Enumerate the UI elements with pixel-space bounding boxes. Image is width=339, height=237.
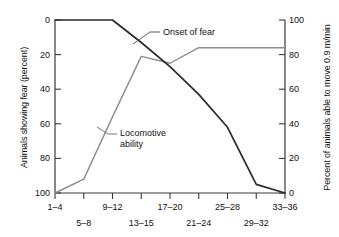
x-axis-tick-33-36: 33–36 (272, 203, 297, 212)
y-axis-left-tick-80: 80 (18, 154, 50, 163)
y-axis-left-tick-100: 100 (18, 189, 50, 198)
y-axis-right-title: Percent of animals able to move 0.9 m/mi… (323, 13, 332, 203)
x-axis-tick-1-4: 1–4 (47, 203, 62, 212)
left-axis-ticks (55, 20, 61, 193)
series-label-locomotive-ability: Locomotive ability (120, 128, 166, 150)
chart-figure: Animals showing fear (percent) Percent o… (0, 0, 339, 237)
onset-of-fear-leader-line (133, 32, 160, 44)
x-axis-tick-29-32: 29–32 (244, 219, 269, 228)
y-axis-right-tick-20: 20 (289, 154, 321, 163)
y-axis-left-tick-40: 40 (18, 85, 50, 94)
y-axis-left-tick-20: 20 (18, 51, 50, 60)
y-axis-left-tick-60: 60 (18, 120, 50, 129)
x-axis-tick-9-12: 9–12 (102, 203, 122, 212)
y-axis-right-tick-60: 60 (289, 85, 321, 94)
x-axis-tick-13-15: 13–15 (129, 219, 154, 228)
y-axis-right-tick-0: 0 (289, 189, 321, 198)
x-axis-tick-17-20: 17–20 (157, 203, 182, 212)
series-label-locomotive-ability-line1: Locomotive (120, 128, 166, 139)
series-label-onset-of-fear: Onset of fear (163, 27, 215, 38)
series-label-locomotive-ability-line2: ability (120, 139, 166, 150)
x-axis-ticks (55, 193, 285, 199)
y-axis-right-tick-80: 80 (289, 51, 321, 60)
x-axis-tick-5-8: 5–8 (76, 219, 91, 228)
right-axis-ticks (279, 20, 285, 193)
y-axis-right-tick-40: 40 (289, 120, 321, 129)
x-axis-tick-21-24: 21–24 (186, 219, 211, 228)
y-axis-right-tick-100: 100 (289, 16, 321, 25)
y-axis-left-tick-0: 0 (18, 16, 50, 25)
x-axis-tick-25-28: 25–28 (215, 203, 240, 212)
